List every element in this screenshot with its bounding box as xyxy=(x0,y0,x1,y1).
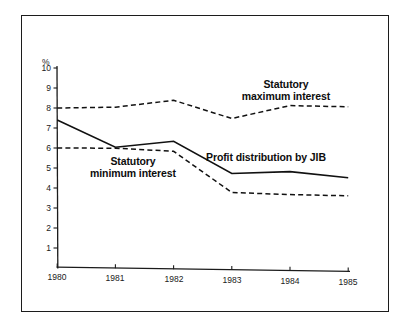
annotation-min-line1: Statutory xyxy=(70,156,196,168)
y-tick-label-10: 10 xyxy=(35,63,51,73)
y-tick-label-3: 3 xyxy=(35,203,51,213)
y-tick-label-7: 7 xyxy=(35,123,51,133)
y-tick-label-4: 4 xyxy=(35,183,51,193)
chart-figure: % 10 9 8 7 6 5 4 3 2 1 1980 1981 1982 19… xyxy=(0,0,409,332)
y-tick-label-8: 8 xyxy=(35,103,51,113)
annotation-profit-distribution-by-jib: Profit distribution by JIB xyxy=(206,152,364,164)
y-tick-label-1: 1 xyxy=(35,243,51,253)
annotation-min-line2: minimum interest xyxy=(70,168,196,180)
x-tick-label-1981: 1981 xyxy=(98,273,132,283)
annotation-statutory-maximum-interest: Statutory maximum interest xyxy=(223,79,349,102)
annotation-max-line1: Statutory xyxy=(223,79,349,91)
y-tick-label-2: 2 xyxy=(35,223,51,233)
x-tick-label-1982: 1982 xyxy=(157,274,191,284)
x-tick-label-1980: 1980 xyxy=(40,272,74,282)
annotation-statutory-minimum-interest: Statutory minimum interest xyxy=(70,156,196,179)
x-tick-label-1983: 1983 xyxy=(215,275,249,285)
x-tick-label-1985: 1985 xyxy=(331,277,365,287)
annotation-max-line2: maximum interest xyxy=(223,91,349,103)
x-tick-label-1984: 1984 xyxy=(273,276,307,286)
y-tick-label-9: 9 xyxy=(35,83,51,93)
y-tick-label-6: 6 xyxy=(35,143,51,153)
y-tick-label-5: 5 xyxy=(35,163,51,173)
